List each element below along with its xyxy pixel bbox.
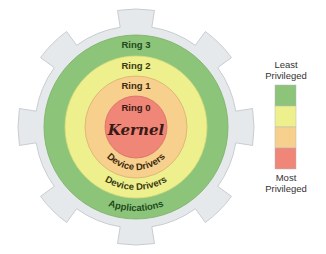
legend-bottom-label-line1: Most: [276, 172, 297, 183]
ring-0-label: Ring 0: [121, 102, 150, 113]
legend-swatch-most-privileged: [275, 148, 296, 169]
privilege-legend: Least Privileged Most Privileged: [265, 59, 307, 194]
legend-swatch-low-privileged: [275, 106, 296, 127]
legend-top-label-line1: Least: [274, 59, 298, 70]
legend-top-label-line2: Privileged: [265, 70, 307, 81]
legend-swatch-high-privileged: [275, 127, 296, 148]
kernel-label: Kernel: [107, 121, 165, 139]
protection-rings-diagram: Ring 3 Ring 2 Ring 1 Ring 0 Kernel Devic…: [0, 0, 326, 254]
ring-1-label: Ring 1: [121, 80, 151, 91]
ring-3-label: Ring 3: [121, 39, 150, 50]
legend-bottom-label-line2: Privileged: [265, 183, 307, 194]
legend-swatch-least-privileged: [275, 85, 296, 106]
ring-2-label: Ring 2: [121, 60, 150, 71]
